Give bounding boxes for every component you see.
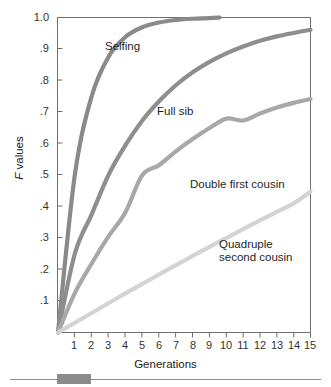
series-label-qsc-line2: second cousin: [219, 251, 293, 263]
x-tick-label-6: 6: [151, 339, 167, 351]
x-tick-label-9: 9: [201, 339, 217, 351]
x-tick-label-4: 4: [117, 339, 133, 351]
y-tick-label-5: .6: [23, 137, 49, 149]
y-axis-ticks: [58, 49, 63, 301]
x-tick-label-5: 5: [134, 339, 150, 351]
x-tick-label-13: 13: [269, 339, 285, 351]
y-tick-label-4: .7: [23, 105, 49, 117]
y-tick-label-2: .9: [23, 42, 49, 54]
x-tick-label-15: 15: [302, 339, 318, 351]
footer-marker-block: [57, 374, 91, 384]
x-tick-label-10: 10: [218, 339, 234, 351]
y-tick-label-10: .1: [23, 294, 49, 306]
y-axis-title-rest: values: [13, 136, 25, 172]
series-label-quadruple-second-cousin: Quadruple second cousin: [219, 238, 293, 264]
y-tick-label-9: .2: [23, 263, 49, 275]
series-label-qsc-line1: Quadruple: [219, 238, 273, 250]
series-label-full-sib: Full sib: [157, 105, 193, 118]
y-tick-label-7: .4: [23, 200, 49, 212]
y-tick-label-6: .5: [23, 168, 49, 180]
y-tick-label-1: 1.0: [23, 11, 49, 23]
x-tick-label-12: 12: [252, 339, 268, 351]
y-axis-title-italic: F: [13, 173, 25, 180]
series-label-double-first-cousin: Double first cousin: [190, 178, 285, 191]
y-tick-label-8: .3: [23, 231, 49, 243]
x-tick-label-1: 1: [66, 339, 82, 351]
x-tick-label-3: 3: [100, 339, 116, 351]
y-axis-title: F values: [13, 128, 25, 188]
chart-plot-area: [0, 0, 331, 387]
x-tick-label-7: 7: [168, 339, 184, 351]
x-tick-label-14: 14: [286, 339, 302, 351]
x-tick-label-8: 8: [185, 339, 201, 351]
chart-series-group: [58, 18, 311, 333]
x-axis-title: Generations: [0, 358, 331, 370]
series-label-selfing: Selfing: [105, 40, 140, 53]
x-tick-label-11: 11: [235, 339, 251, 351]
x-tick-label-2: 2: [83, 339, 99, 351]
plot-frame: [57, 17, 311, 333]
chart-figure: 1.0 .9 .8 .7 .6 .5 .4 .3 .2 .1 1 2 3 4 5…: [0, 0, 331, 387]
x-axis-ticks: [74, 333, 310, 338]
y-tick-label-3: .8: [23, 74, 49, 86]
